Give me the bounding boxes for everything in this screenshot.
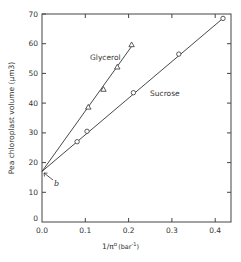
chart: 70 60 50 40 30 20 10 0 0.0 0.1 0.2 0.3 0… <box>0 0 241 262</box>
glycerol-point <box>86 104 91 109</box>
x-axis-label: 1/πo(bar-1) <box>102 241 139 251</box>
y-tick-40: 40 <box>28 99 38 108</box>
y-tick-0: 0 <box>33 214 38 223</box>
glycerol-point <box>115 64 120 69</box>
y-tick-60: 60 <box>28 39 38 48</box>
sucrose-label: Sucrose <box>150 89 180 98</box>
y-tick-50: 50 <box>28 69 38 78</box>
glycerol-label: Glycerol <box>90 53 121 62</box>
x-tick-0.2: 0.2 <box>123 226 135 235</box>
y-tick-30: 30 <box>28 128 38 137</box>
y-axis-label: Pea chloroplast volume (μm3) <box>7 62 16 175</box>
x-tick-0: 0.0 <box>36 226 48 235</box>
x-tick-0.1: 0.1 <box>79 226 91 235</box>
y-tick-70: 70 <box>28 10 38 19</box>
sucrose-point <box>75 140 79 144</box>
sucrose-point <box>85 129 89 133</box>
x-tick-0.3: 0.3 <box>166 226 178 235</box>
y-tick-10: 10 <box>28 188 38 197</box>
x-tick-labels: 0.0 0.1 0.2 0.3 0.4 <box>36 226 221 235</box>
y-tick-labels: 70 60 50 40 30 20 10 0 <box>28 10 38 224</box>
plot-frame <box>42 14 231 222</box>
x-tick-0.4: 0.4 <box>209 226 221 235</box>
sucrose-point <box>131 91 135 95</box>
y-tick-20: 20 <box>28 158 38 167</box>
y-axis <box>42 14 231 192</box>
intercept-label: b <box>54 179 59 188</box>
sucrose-point <box>177 52 181 56</box>
sucrose-point <box>221 16 225 20</box>
intercept-arrow <box>44 173 53 180</box>
glycerol-point <box>129 42 134 47</box>
